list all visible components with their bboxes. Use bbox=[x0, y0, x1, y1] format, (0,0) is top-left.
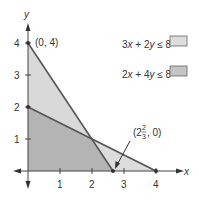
annotation-0-4: (0, 4) bbox=[35, 37, 58, 48]
point-2-23-0 bbox=[111, 169, 115, 173]
svg-text:, 0): , 0) bbox=[147, 127, 161, 138]
svg-text:(2: (2 bbox=[133, 127, 142, 138]
x-axis-label: x bbox=[183, 166, 190, 177]
y-axis-arrow-up bbox=[26, 23, 31, 31]
legend-item-1: 3x + 2y ≤ 8 bbox=[122, 36, 187, 50]
x-tick-3: 3 bbox=[121, 179, 127, 190]
y-tick-3: 3 bbox=[14, 70, 20, 81]
x-axis-arrow-right bbox=[176, 169, 184, 174]
y-tick-2: 2 bbox=[14, 102, 20, 113]
y-axis-label: y bbox=[23, 9, 30, 20]
y-tick-4: 4 bbox=[14, 38, 20, 49]
point-0-4 bbox=[26, 41, 30, 45]
svg-text:2: 2 bbox=[142, 124, 146, 131]
svg-text:3x + 2y ≤ 8: 3x + 2y ≤ 8 bbox=[122, 39, 172, 50]
legend-swatch-1 bbox=[170, 36, 187, 46]
inequality-graph: 1 2 3 4 1 2 3 4 x y (0, 4) (2 2 3 , 0) 3… bbox=[0, 0, 199, 201]
point-4-0 bbox=[154, 169, 158, 173]
svg-text:3: 3 bbox=[142, 133, 146, 140]
x-axis-arrow-left bbox=[13, 169, 21, 174]
annotation-2-23-0: (2 2 3 , 0) bbox=[133, 124, 161, 140]
x-tick-1: 1 bbox=[57, 179, 63, 190]
legend-item-2: 2x + 4y ≤ 8 bbox=[122, 66, 187, 80]
svg-text:2x + 4y ≤ 8: 2x + 4y ≤ 8 bbox=[122, 69, 172, 80]
y-axis-arrow-down bbox=[26, 181, 31, 189]
x-tick-2: 2 bbox=[89, 179, 95, 190]
point-0-2 bbox=[26, 105, 30, 109]
y-tick-1: 1 bbox=[14, 134, 20, 145]
x-tick-4: 4 bbox=[153, 179, 159, 190]
legend-swatch-2 bbox=[170, 66, 187, 76]
